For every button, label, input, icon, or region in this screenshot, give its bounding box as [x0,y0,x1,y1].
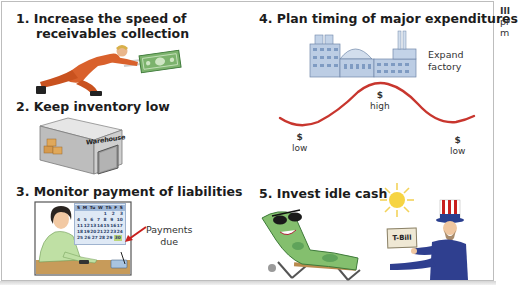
curve-label-high: $ high [370,90,390,112]
panel-4-title: Plan timing of major expenditures [277,11,518,26]
curve-label-text: low [292,143,307,154]
figure-shadow [0,281,496,285]
panel-4-number: 4. [259,11,272,26]
curve-label-text: high [370,101,390,112]
dollar-on-lounger-icon [258,200,370,282]
calendar-week-5: 252627282930 [77,235,123,241]
caption-line-3: m [500,27,510,38]
panel-5-heading: 5. Invest idle cash [259,186,387,201]
skater-chasing-dollar-icon [32,40,182,95]
payments-due-label: Payments due [146,224,193,248]
due-date-highlight: 30 [114,235,122,241]
payments-due-line1: Payments [146,224,193,236]
expand-factory-label: Expand factory [428,49,464,73]
dollar-symbol: $ [450,135,465,146]
dollar-symbol: $ [292,132,307,143]
panel-4-heading: 4. Plan timing of major expenditures [259,11,518,26]
factory-icon [310,29,420,79]
panel-3-heading: 3. Monitor payment of liabilities [16,184,242,199]
expand-factory-line1: Expand [428,49,464,61]
uncle-sam-icon [410,198,470,282]
calendar: SMTuWThFS 123 45678910 11121314151617 18… [74,203,126,245]
payments-due-line2: due [146,236,193,248]
curve-label-low-left: $ low [292,132,307,154]
panel-5-title: Invest idle cash [277,186,387,201]
warehouse-icon [38,116,128,176]
panel-2-title: Keep inventory low [34,99,170,114]
expand-factory-line2: factory [428,61,464,73]
cash-management-figure: 1. Increase the speed of receivables col… [1,1,494,281]
dollar-symbol: $ [370,90,390,101]
panel-1-heading: 1. Increase the speed of [16,11,187,26]
caption-line-1: Ill [500,5,510,16]
panel-1-heading-line2: receivables collection [36,26,189,41]
panel-2-number: 2. [16,99,29,114]
panel-3-title: Monitor payment of liabilities [34,184,243,199]
panel-5-number: 5. [259,186,272,201]
panel-1-title-line1: Increase the speed of [34,11,187,26]
figure-caption-fragment: Ill pr m [500,5,510,38]
caption-line-2: pr [500,16,510,27]
arrow-icon [124,225,148,243]
panel-3-number: 3. [16,184,29,199]
curve-label-text: low [450,146,465,157]
panel-1-number: 1. [16,11,29,26]
curve-label-low-right: $ low [450,135,465,157]
t-bill-sign: T-Bill [387,227,418,248]
panel-2-heading: 2. Keep inventory low [16,99,170,114]
